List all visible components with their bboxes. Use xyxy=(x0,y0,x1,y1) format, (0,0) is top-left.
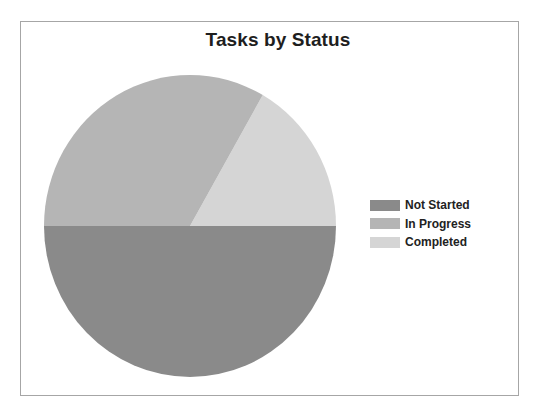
pie-slices xyxy=(44,75,336,377)
legend-swatch xyxy=(370,200,400,211)
legend-label: Completed xyxy=(405,235,467,249)
legend-label: In Progress xyxy=(405,217,471,231)
legend: Not Started In Progress Completed xyxy=(370,196,471,252)
legend-item-completed: Completed xyxy=(370,233,471,252)
legend-item-in-progress: In Progress xyxy=(370,215,471,234)
legend-swatch xyxy=(370,237,400,248)
legend-item-not-started: Not Started xyxy=(370,196,471,215)
legend-swatch xyxy=(370,218,400,229)
legend-label: Not Started xyxy=(405,198,470,212)
pie-slice-not-started xyxy=(44,226,336,377)
